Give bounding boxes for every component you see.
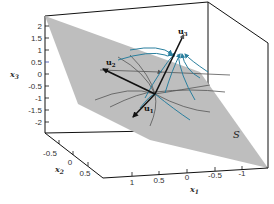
svg-text:-0.5: -0.5: [208, 171, 222, 180]
svg-text:-0.5: -0.5: [28, 82, 42, 91]
x2-axis-ticks: [59, 140, 88, 166]
x3-axis-label: x3: [9, 69, 19, 80]
u3-label: u3: [178, 26, 188, 37]
svg-text:-1: -1: [238, 169, 246, 178]
svg-text:-1: -1: [35, 94, 43, 103]
svg-text:1.5: 1.5: [31, 34, 43, 43]
svg-text:-2: -2: [35, 118, 43, 127]
x3-tick-labels: 2 1.5 1 0.5 0 -0.5 -1 -1.5 -2: [28, 22, 42, 127]
svg-text:0: 0: [38, 70, 43, 79]
svg-text:0.5: 0.5: [31, 58, 43, 67]
svg-text:-1.5: -1.5: [28, 106, 42, 115]
svg-text:1: 1: [38, 46, 43, 55]
svg-text:-0.5: -0.5: [43, 149, 57, 158]
x1-axis-label: x1: [189, 184, 199, 195]
plane-label: S: [233, 129, 240, 140]
3d-plot: 2 1.5 1 0.5 0 -0.5 -1 -1.5 -2 x3 -0.5 0 …: [0, 0, 274, 204]
svg-text:0: 0: [185, 173, 190, 182]
svg-text:2: 2: [38, 22, 43, 31]
svg-text:0.5: 0.5: [153, 176, 165, 185]
x1-tick-labels: 1 0.5 0 -0.5 -1: [130, 169, 246, 187]
x2-axis-label: x2: [54, 164, 64, 175]
svg-text:1: 1: [130, 178, 135, 187]
svg-text:0.5: 0.5: [79, 169, 91, 178]
svg-text:0: 0: [68, 158, 73, 167]
